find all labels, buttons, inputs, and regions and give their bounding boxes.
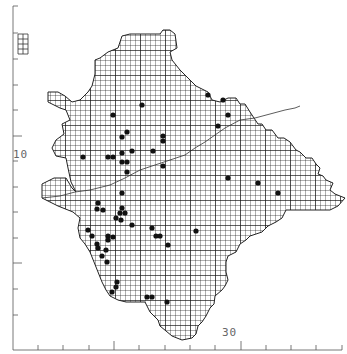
left-axis-label: 10 <box>13 148 28 161</box>
record-dot <box>105 237 110 242</box>
map-canvas <box>0 0 347 354</box>
record-dot <box>119 159 124 164</box>
record-dot <box>114 279 119 284</box>
record-dot <box>99 253 104 258</box>
record-dot <box>95 200 100 205</box>
record-dot <box>149 294 154 299</box>
record-dot <box>104 259 109 264</box>
record-dot <box>164 299 169 304</box>
record-dot <box>110 154 115 159</box>
record-dot <box>139 102 144 107</box>
record-dot <box>124 169 129 174</box>
record-dot <box>85 227 90 232</box>
record-dot <box>89 233 94 238</box>
record-dot <box>255 180 260 185</box>
record-dot <box>160 133 165 138</box>
record-dot <box>95 245 100 250</box>
record-dot <box>225 175 230 180</box>
record-dot <box>220 97 225 102</box>
record-dot <box>160 163 165 168</box>
record-dot <box>103 247 108 252</box>
record-dot <box>193 228 198 233</box>
record-dot <box>165 242 170 247</box>
record-dot <box>225 112 230 117</box>
record-dot <box>157 233 162 238</box>
record-dot <box>149 225 154 230</box>
record-dot <box>160 138 165 143</box>
record-dot <box>119 150 124 155</box>
record-dot <box>113 215 118 220</box>
record-dot <box>129 222 134 227</box>
record-dot <box>119 205 124 210</box>
record-dot <box>119 134 124 139</box>
bottom-axis-label: 30 <box>222 326 237 339</box>
record-dot <box>150 148 155 153</box>
record-dot <box>118 217 123 222</box>
distribution-map: 10 30 <box>0 0 347 354</box>
record-dot <box>124 129 129 134</box>
record-dot <box>94 206 99 211</box>
record-dot <box>275 190 280 195</box>
record-dot <box>100 207 105 212</box>
record-dot <box>129 148 134 153</box>
map-grid <box>0 0 347 354</box>
record-dot <box>110 112 115 117</box>
record-dot <box>215 123 220 128</box>
record-dot <box>110 234 115 239</box>
record-dot <box>144 294 149 299</box>
record-dot <box>105 154 110 159</box>
record-dot <box>124 159 129 164</box>
record-dot <box>122 210 127 215</box>
record-dot <box>205 92 210 97</box>
record-dot <box>80 154 85 159</box>
record-dot <box>109 289 114 294</box>
record-dot <box>117 210 122 215</box>
record-dot <box>113 284 118 289</box>
inset-grid-box <box>18 34 28 54</box>
record-dot <box>119 190 124 195</box>
